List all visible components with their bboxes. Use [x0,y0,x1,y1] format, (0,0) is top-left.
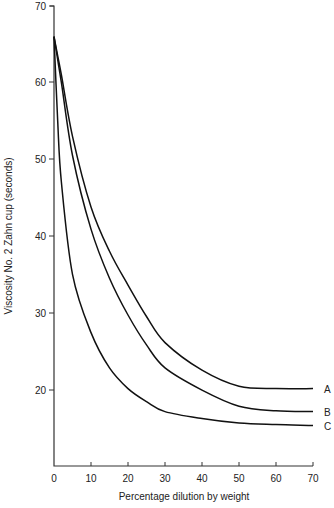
y-tick-20: 20 [35,385,47,396]
curve-c [54,37,313,426]
x-tick-0: 0 [51,473,57,484]
series-label-c: C [324,421,331,432]
x-tick-20: 20 [122,473,134,484]
y-tick-50: 50 [35,154,47,165]
series-label-b: B [324,407,331,418]
x-tick-70: 70 [307,473,319,484]
series-label-a: A [324,384,331,395]
y-axis-ticks: 70 60 50 40 30 20 [35,1,54,396]
y-axis-title: Viscosity No. 2 Zahn cup (seconds) [3,157,14,314]
x-tick-40: 40 [196,473,208,484]
y-tick-40: 40 [35,231,47,242]
x-axis-ticks: 0 10 20 30 40 50 60 70 [51,462,319,484]
x-tick-30: 30 [159,473,171,484]
curve-b [54,37,313,412]
chart: 70 60 50 40 30 20 0 10 20 30 40 50 60 70… [0,0,334,508]
y-tick-60: 60 [35,77,47,88]
x-tick-60: 60 [270,473,282,484]
y-tick-70: 70 [35,1,47,12]
y-tick-30: 30 [35,308,47,319]
x-axis-title: Percentage dilution by weight [119,491,250,502]
x-tick-50: 50 [233,473,245,484]
axes [50,6,313,466]
x-tick-10: 10 [85,473,97,484]
